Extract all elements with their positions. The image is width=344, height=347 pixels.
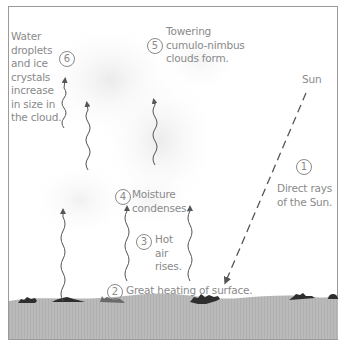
step-6-number: 6 — [59, 51, 75, 67]
wavy-arrow-up-icon — [188, 208, 192, 281]
step-3-text: Hot air rises. — [155, 233, 182, 274]
step-6-text: Water droplets and ice crystals increase… — [11, 30, 61, 125]
step-5-number: 5 — [147, 38, 163, 54]
step-4-text: Moisture condenses. — [132, 188, 189, 215]
step-1-number: 1 — [296, 159, 312, 175]
sun-label: Sun — [302, 73, 321, 87]
step-2-number: 2 — [107, 284, 123, 300]
step-2-text: Great heating of surface. — [126, 284, 252, 298]
step-4-number: 4 — [115, 189, 131, 205]
step-3-number: 3 — [136, 234, 152, 250]
step-1-text: Direct rays of the Sun. — [277, 182, 332, 209]
step-5-text: Towering cumulo-nimbus clouds form. — [166, 25, 245, 66]
